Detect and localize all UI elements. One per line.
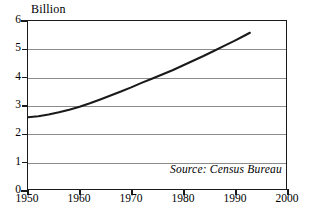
x-axis-tick-label: 1950 [4, 193, 50, 205]
y-axis-tick-label: 1 [1, 156, 21, 168]
x-axis-tick-label: 1990 [212, 193, 258, 205]
y-axis-tick [21, 20, 28, 22]
x-axis-tick-label: 2000 [264, 193, 310, 205]
x-axis-tick-label: 1970 [108, 193, 154, 205]
y-axis-unit-label: Billion [31, 2, 66, 16]
y-axis-tick-label: 2 [1, 127, 21, 139]
y-axis-tick-label: 6 [1, 14, 21, 26]
y-axis-tick-label: 4 [1, 71, 21, 83]
x-axis-tick-label: 1980 [160, 193, 206, 205]
x-axis-tick-label: 1960 [56, 193, 102, 205]
y-axis-tick-label: 5 [1, 42, 21, 54]
population-line-chart: Billion 0123456 195019601970198019902000… [0, 0, 315, 217]
y-axis-tick-label: 3 [1, 99, 21, 111]
source-note: Source: Census Bureau [170, 163, 282, 175]
